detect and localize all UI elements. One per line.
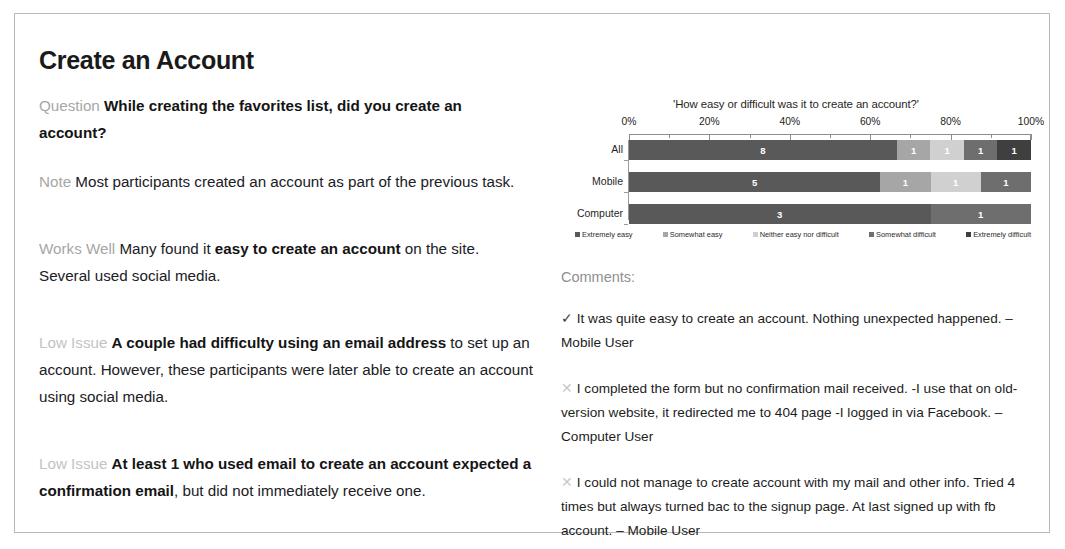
finding-text: , but did not immediately receive one. [174,482,426,499]
comment-item: ✓ It was quite easy to create an account… [561,307,1039,355]
chart-plot-area: All81111Mobile5111Computer31 [561,140,1031,220]
bar-track: 5111 [629,172,1031,192]
x-axis-minor-tick [830,134,831,138]
finding-paragraph: Low Issue A couple had difficulty using … [39,329,533,410]
bar-segment: 1 [981,172,1031,192]
comment-text: I could not manage to create account wit… [561,475,1015,538]
legend-item: Neither easy nor difficult [753,230,839,239]
bar-segment: 8 [629,140,897,160]
y-axis-tick [624,192,628,193]
chart-legend: Extremely easySomewhat easyNeither easy … [575,230,1031,239]
chart-title: 'How easy or difficult was it to create … [561,98,1031,110]
finding-text: Most participants created an account as … [75,173,514,190]
bar-category-label: Mobile [561,175,623,187]
bar-track: 81111 [629,140,1031,160]
finding-tag: Low Issue [39,455,112,472]
bar-segment: 1 [964,140,997,160]
chart-bar-row: All81111 [561,140,1031,160]
finding-text-bold: difficulty using an email address [211,334,446,351]
bar-segment: 1 [880,172,930,192]
finding-paragraph: Works Well Many found it easy to create … [39,235,533,289]
bar-track: 31 [629,204,1031,224]
report-card: Create an Account Question While creatin… [14,13,1050,533]
bar-segment: 5 [629,172,880,192]
x-tick-label: 20% [699,116,720,127]
legend-swatch-icon [663,232,668,237]
chart-bar-row: Mobile5111 [561,172,1031,192]
stacked-bar-chart: 'How easy or difficult was it to create … [561,92,1031,252]
x-axis-minor-tick [991,134,992,138]
comment-text: I completed the form but no confirmation… [561,381,1017,444]
findings-column: Question While creating the favorites li… [39,92,533,526]
bar-segment: 1 [931,204,1032,224]
finding-tag: Low Issue [39,334,112,351]
comments-heading: Comments: [561,269,1039,285]
bar-segment: 1 [931,172,981,192]
x-axis-major-tick [1031,134,1032,140]
y-axis-tick [624,224,628,225]
check-icon: ✓ [561,311,577,326]
legend-swatch-icon [869,232,874,237]
x-tick-label: 80% [940,116,961,127]
finding-paragraph: Note Most participants created an accoun… [39,168,533,195]
bar-category-label: All [561,143,623,155]
finding-tag: Works Well [39,240,119,257]
chart-x-axis-labels: 0%20%40%60%80%100% [593,116,1031,130]
comments-list: ✓ It was quite easy to create an account… [561,307,1039,543]
finding-text-bold: easy to create an account [215,240,401,257]
x-axis-minor-tick [669,134,670,138]
x-tick-label: 40% [779,116,800,127]
finding-tag: Note [39,173,75,190]
legend-label: Extremely easy [582,230,633,239]
finding-paragraph: Low Issue At least 1 who used email to c… [39,450,533,504]
finding-tag: Question [39,97,104,114]
report-page: Create an Account Question While creatin… [0,0,1065,549]
x-axis-minor-tick [750,134,751,138]
bar-segment: 1 [930,140,963,160]
chart-bar-row: Computer31 [561,204,1031,224]
cross-icon: ✕ [561,381,577,396]
bar-segment: 1 [997,140,1030,160]
cross-icon: ✕ [561,475,577,490]
legend-item: Extremely easy [575,230,633,239]
comment-item: ✕ I completed the form but no confirmati… [561,377,1039,449]
bar-segment: 1 [897,140,930,160]
y-axis-tick [624,160,628,161]
legend-label: Somewhat easy [670,230,723,239]
legend-label: Neither easy nor difficult [760,230,839,239]
bar-category-label: Computer [561,207,623,219]
legend-label: Extremely difficult [973,230,1031,239]
x-tick-label: 0% [622,116,637,127]
chart-column: 'How easy or difficult was it to create … [561,92,1031,252]
comments-section: Comments: ✓ It was quite easy to create … [561,269,1039,549]
x-tick-label: 60% [860,116,881,127]
x-tick-label: 100% [1018,116,1044,127]
page-title: Create an Account [39,46,254,75]
finding-text: Many found it [119,240,214,257]
legend-label: Somewhat difficult [876,230,936,239]
finding-paragraph: Question While creating the favorites li… [39,92,533,146]
legend-item: Somewhat easy [663,230,723,239]
bar-segment: 3 [629,204,931,224]
finding-text-bold: A couple had [112,334,211,351]
legend-item: Somewhat difficult [869,230,936,239]
comment-text: It was quite easy to create an account. … [561,311,1013,350]
finding-text-bold: At least 1 who used email to create an a… [112,455,453,472]
legend-swatch-icon [966,232,971,237]
legend-swatch-icon [753,232,758,237]
x-axis-minor-tick [910,134,911,138]
comment-item: ✕ I could not manage to create account w… [561,471,1039,543]
legend-item: Extremely difficult [966,230,1031,239]
legend-swatch-icon [575,232,580,237]
